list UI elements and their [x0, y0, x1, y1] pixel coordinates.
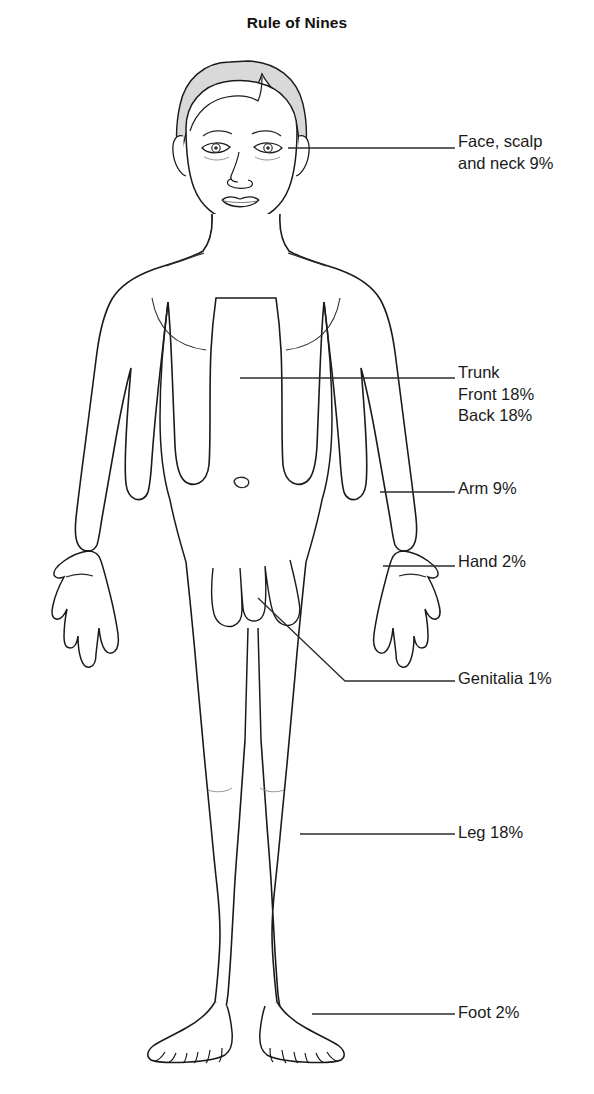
left-pupil: [214, 146, 218, 150]
right-hand: [374, 551, 440, 667]
left-leg-outline: [186, 562, 245, 1012]
left-hand: [52, 551, 118, 667]
label-face-scalp-neck: Face, scalp and neck 9%: [458, 131, 553, 174]
label-leg: Leg 18%: [458, 822, 523, 844]
label-trunk-line-2: Front 18%: [458, 384, 534, 406]
label-arm: Arm 9%: [458, 478, 517, 500]
body-outline: [75, 214, 416, 551]
face-outline: [186, 81, 297, 222]
label-leg-line-1: Leg 18%: [458, 822, 523, 844]
label-hand: Hand 2%: [458, 551, 526, 573]
inner-thigh-divide: [245, 628, 261, 740]
groin-region: [212, 560, 300, 627]
label-genitalia-line-1: Genitalia 1%: [458, 668, 552, 690]
label-genitalia: Genitalia 1%: [458, 668, 552, 690]
right-leg-outline: [261, 562, 306, 1012]
label-foot-line-1: Foot 2%: [458, 1002, 519, 1024]
label-foot: Foot 2%: [458, 1002, 519, 1024]
left-foot: [148, 1002, 232, 1063]
label-trunk-line-1: Trunk: [458, 362, 534, 384]
right-hip: [306, 500, 322, 562]
left-hip: [170, 500, 186, 562]
right-pupil: [266, 146, 270, 150]
label-hand-line-1: Hand 2%: [458, 551, 526, 573]
left-knee: [208, 788, 232, 792]
label-face-scalp-neck-line-1: Face, scalp: [458, 131, 553, 153]
label-face-scalp-neck-line-2: and neck 9%: [458, 153, 553, 175]
label-trunk-line-3: Back 18%: [458, 405, 534, 427]
label-arm-line-1: Arm 9%: [458, 478, 517, 500]
navel: [234, 477, 249, 487]
right-ear: [296, 136, 309, 176]
right-foot: [260, 1002, 344, 1063]
rule-of-nines-diagram: Rule of Nines: [0, 0, 594, 1094]
label-trunk: Trunk Front 18% Back 18%: [458, 362, 534, 427]
